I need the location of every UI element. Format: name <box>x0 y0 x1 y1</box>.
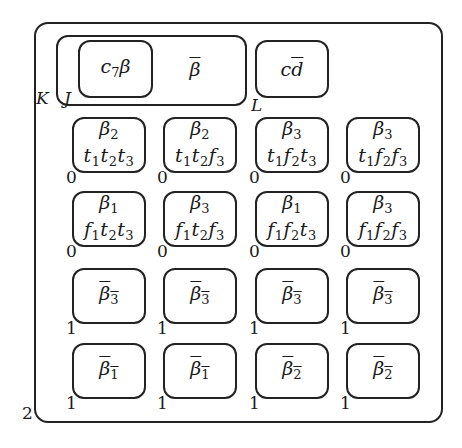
corner-label: 1 <box>340 395 351 412</box>
corner-label: 1 <box>66 320 77 337</box>
grid-cell-r4-c4: β2 <box>346 343 420 399</box>
grid-cell-r1-c3: β3t1f2t3 <box>255 117 329 173</box>
corner-label: 1 <box>157 395 168 412</box>
cell-beta-bar: β <box>165 40 225 98</box>
outer-label: 2 <box>22 405 33 422</box>
corner-label: 0 <box>157 243 168 260</box>
corner-label: 0 <box>157 169 168 186</box>
grid-cell-r4-c1: β1 <box>72 343 146 399</box>
grid-cell-r2-c4: β3f1f2f3 <box>346 191 420 247</box>
label-l: L <box>251 97 262 114</box>
corner-label: 0 <box>66 169 77 186</box>
grid-cell-r1-c4: β3t1f2f3 <box>346 117 420 173</box>
grid-cell-r2-c3: β1f1f2t3 <box>255 191 329 247</box>
grid-cell-r2-c2: β3f1t2f3 <box>163 191 237 247</box>
corner-label: 1 <box>340 320 351 337</box>
corner-label: 0 <box>249 243 260 260</box>
cell-c-dbar: cd <box>255 40 329 98</box>
grid-cell-r3-c1: β3 <box>72 268 146 324</box>
grid-cell-r1-c1: β2t1t2t3 <box>72 117 146 173</box>
corner-label: 0 <box>340 243 351 260</box>
label-j: J <box>64 90 71 107</box>
label-k: K <box>36 90 49 107</box>
corner-label: 0 <box>66 243 77 260</box>
grid-cell-r3-c4: β3 <box>346 268 420 324</box>
grid-cell-r3-c2: β3 <box>163 268 237 324</box>
corner-label: 0 <box>249 169 260 186</box>
corner-label: 0 <box>340 169 351 186</box>
corner-label: 1 <box>66 395 77 412</box>
grid-cell-r4-c2: β1 <box>163 343 237 399</box>
grid-cell-r3-c3: β3 <box>255 268 329 324</box>
corner-label: 1 <box>157 320 168 337</box>
grid-cell-r2-c1: β1f1t2t3 <box>72 191 146 247</box>
corner-label: 1 <box>249 320 260 337</box>
cell-c7-beta: c7β <box>78 40 153 98</box>
corner-label: 1 <box>249 395 260 412</box>
grid-cell-r1-c2: β2t1t2f3 <box>163 117 237 173</box>
grid-cell-r4-c3: β2 <box>255 343 329 399</box>
